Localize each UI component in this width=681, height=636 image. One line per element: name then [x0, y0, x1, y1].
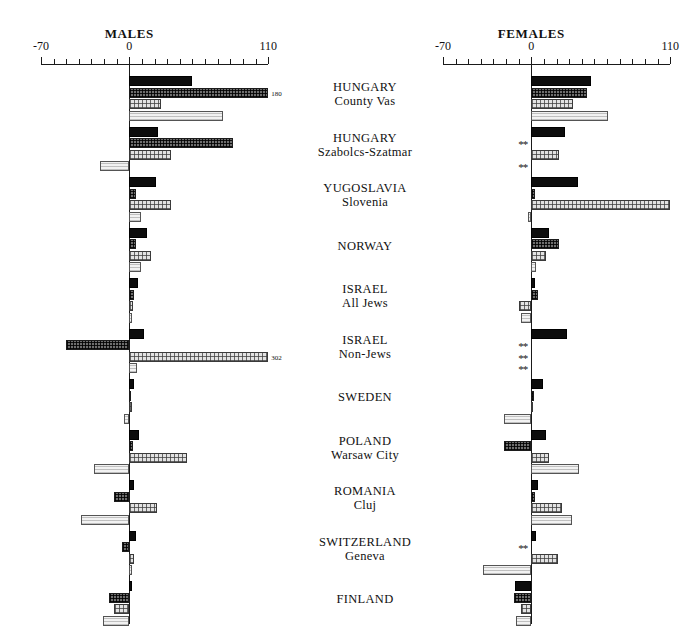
bar-females-g8-s0 [531, 480, 537, 490]
axis-tick [481, 59, 482, 64]
axis-tick [531, 57, 532, 64]
group-label-line1: ISRAEL [295, 282, 435, 296]
bar-females-g7-s2 [531, 453, 549, 463]
group-label-10: FINLAND [295, 592, 435, 606]
unavailable-marker: ** [518, 364, 527, 375]
group-label-5: ISRAELNon-Jews [295, 333, 435, 361]
axis-tick [506, 59, 507, 64]
chart-figure: MALES-700110180302FEMALES-700110********… [0, 0, 681, 636]
bar-females-g7-s0 [531, 430, 546, 440]
bar-females-g8-s2 [531, 503, 561, 513]
axis-tick [645, 59, 646, 64]
group-label-line2: Cluj [295, 498, 435, 512]
bar-females-g3-s0 [531, 228, 549, 238]
group-label-3: NORWAY [295, 239, 435, 253]
bar-females-g7-s3 [531, 464, 579, 474]
axis-tick [569, 59, 570, 64]
bar-females-g1-s2 [531, 150, 559, 160]
bar-females-g4-s1 [531, 290, 537, 300]
bar-females-g7-s1 [504, 441, 532, 451]
group-label-6: SWEDEN [295, 390, 435, 404]
group-label-line2: Slovenia [295, 195, 435, 209]
group-label-line1: NORWAY [295, 239, 435, 253]
group-label-line2: All Jews [295, 296, 435, 310]
axis-zero-label-females: 0 [501, 39, 561, 54]
bar-females-g2-s2 [531, 200, 670, 210]
group-label-line1: HUNGARY [295, 80, 435, 94]
group-label-line1: SWITZERLAND [295, 535, 435, 549]
group-label-8: ROMANIACluj [295, 484, 435, 512]
axis-tick [468, 59, 469, 64]
group-label-line1: YUGOSLAVIA [295, 181, 435, 195]
group-label-line2: County Vas [295, 94, 435, 108]
bar-females-g4-s3 [521, 313, 531, 323]
bar-females-g4-s2 [519, 301, 532, 311]
bar-females-g9-s2 [531, 554, 558, 564]
group-label-4: ISRAELAll Jews [295, 282, 435, 310]
axis-tick [632, 59, 633, 64]
bar-females-g5-s0 [531, 329, 566, 339]
axis-tick [670, 57, 671, 64]
group-label-line2: Geneva [295, 549, 435, 563]
axis-tick [456, 59, 457, 64]
axis-line-females [443, 64, 670, 65]
bar-females-g3-s3 [531, 262, 536, 272]
bar-females-g10-s1 [514, 593, 532, 603]
axis-tick [493, 59, 494, 64]
group-label-line2: Non-Jews [295, 347, 435, 361]
axis-tick [557, 59, 558, 64]
axis-tick [594, 59, 595, 64]
bar-females-g0-s0 [531, 76, 590, 86]
axis-tick [607, 59, 608, 64]
group-label-2: YUGOSLAVIASlovenia [295, 181, 435, 209]
bar-females-g1-s0 [531, 127, 565, 137]
group-label-line1: ROMANIA [295, 484, 435, 498]
axis-tick [519, 59, 520, 64]
axis-tick [582, 59, 583, 64]
bar-females-g10-s2 [521, 604, 531, 614]
bar-females-g8-s3 [531, 515, 571, 525]
group-label-line1: POLAND [295, 434, 435, 448]
bar-females-g9-s3 [483, 565, 531, 575]
bar-females-g4-s0 [531, 278, 535, 288]
group-label-line2: Warsaw City [295, 448, 435, 462]
bar-females-g6-s2 [531, 402, 533, 412]
axis-tick [544, 59, 545, 64]
bar-females-g9-s0 [531, 531, 536, 541]
bar-females-g2-s1 [531, 189, 535, 199]
axis-max-label-females: 110 [640, 39, 681, 54]
unavailable-marker: ** [518, 139, 527, 150]
group-label-line1: ISRAEL [295, 333, 435, 347]
bar-females-g3-s2 [531, 251, 546, 261]
bar-females-g0-s3 [531, 111, 608, 121]
group-label-line2: Szabolcs-Szatmar [295, 145, 435, 159]
bar-females-g10-s3 [516, 616, 531, 626]
bar-females-g6-s1 [531, 391, 534, 401]
bar-females-g6-s3 [504, 414, 532, 424]
bar-females-g8-s1 [531, 492, 535, 502]
group-label-7: POLANDWarsaw City [295, 434, 435, 462]
axis-min-label-females: -70 [413, 39, 473, 54]
bar-females-g3-s1 [531, 239, 559, 249]
axis-tick [443, 57, 444, 64]
unavailable-marker: ** [518, 353, 527, 364]
bar-females-g10-s0 [515, 581, 531, 591]
group-label-line1: HUNGARY [295, 131, 435, 145]
group-label-9: SWITZERLANDGeneva [295, 535, 435, 563]
axis-tick [620, 59, 621, 64]
bar-females-g2-s0 [531, 177, 578, 187]
group-label-line1: FINLAND [295, 592, 435, 606]
unavailable-marker: ** [518, 162, 527, 173]
bar-females-g2-s3 [528, 212, 532, 222]
bar-females-g0-s1 [531, 88, 587, 98]
unavailable-marker: ** [518, 543, 527, 554]
bar-females-g6-s0 [531, 379, 542, 389]
axis-tick [658, 59, 659, 64]
group-label-0: HUNGARYCounty Vas [295, 80, 435, 108]
unavailable-marker: ** [518, 341, 527, 352]
group-label-line1: SWEDEN [295, 390, 435, 404]
bar-females-g0-s2 [531, 99, 573, 109]
group-label-1: HUNGARYSzabolcs-Szatmar [295, 131, 435, 159]
